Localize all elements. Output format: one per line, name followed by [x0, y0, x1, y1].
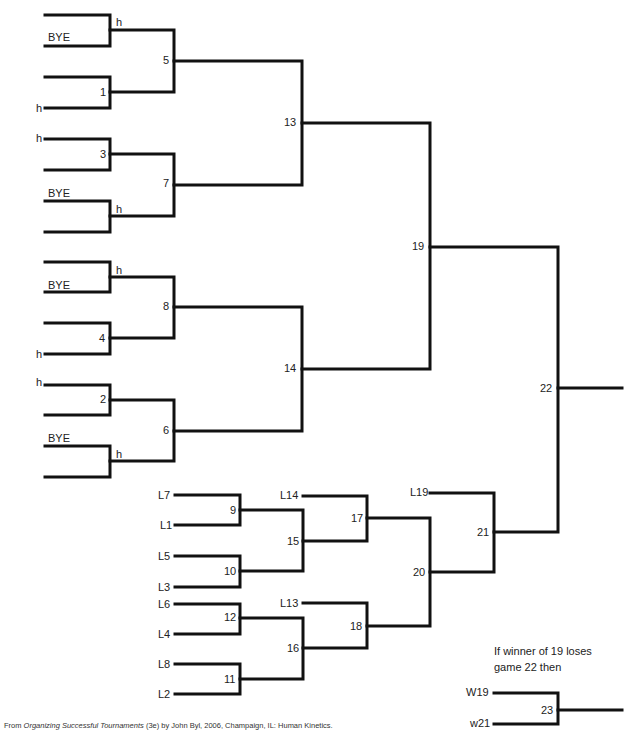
- game-number: 13: [284, 116, 296, 128]
- game-number: 9: [230, 504, 236, 516]
- entry-label: L14: [280, 489, 298, 501]
- entry-label: L6: [158, 598, 170, 610]
- game-number: 14: [284, 362, 296, 374]
- entry-label: L8: [158, 658, 170, 670]
- bye-label: BYE: [48, 279, 70, 291]
- home-marker: h: [36, 132, 42, 144]
- entry-label: L19: [410, 486, 428, 498]
- entry-label: L4: [158, 628, 170, 640]
- losers-labels: L7 L1 L5 L3 L6 L4 L8 L2 9 10 12 11 L14 1…: [158, 486, 489, 700]
- bye-label: BYE: [48, 432, 70, 444]
- source-citation: From Organizing Successful Tournaments (…: [4, 721, 333, 730]
- game-number: 18: [350, 620, 362, 632]
- game-number: 22: [540, 382, 552, 394]
- entry-label: L1: [160, 519, 172, 531]
- tournament-bracket: h BYE 5 1 h h 3 7 BYE h h BYE 8 4 h h 2 …: [0, 0, 641, 754]
- game-number: 4: [99, 332, 105, 344]
- entry-label: L2: [158, 688, 170, 700]
- game-number: 6: [163, 424, 169, 436]
- entry-label: L5: [158, 550, 170, 562]
- game-number: 20: [413, 566, 425, 578]
- losers-bracket-lines: [175, 493, 494, 694]
- game-number: 19: [412, 240, 424, 252]
- citation-title: Organizing Successful Tournaments: [24, 721, 144, 730]
- home-marker: h: [116, 264, 122, 276]
- game-number: 10: [224, 565, 236, 577]
- game-number: 7: [163, 177, 169, 189]
- entry-label: w21: [469, 717, 490, 729]
- home-marker: h: [116, 448, 122, 460]
- game-number: 23: [541, 704, 553, 716]
- game-number: 21: [477, 526, 489, 538]
- bye-label: BYE: [48, 187, 70, 199]
- winners-second-round: [110, 30, 174, 461]
- entry-label: W19: [466, 686, 489, 698]
- home-marker: h: [116, 203, 122, 215]
- home-marker: h: [36, 376, 42, 388]
- game-number: 2: [100, 393, 106, 405]
- game-number: 16: [287, 642, 299, 654]
- if-game-note: If winner of 19 loses: [494, 645, 592, 657]
- grand-final-lines: [430, 247, 558, 532]
- game-number: 15: [287, 535, 299, 547]
- home-marker: h: [36, 102, 42, 114]
- if-game-lines: [494, 693, 622, 724]
- winners-third-round: [174, 61, 302, 431]
- bye-label: BYE: [48, 31, 70, 43]
- game-number: 17: [351, 512, 363, 524]
- home-marker: h: [36, 348, 42, 360]
- entry-label: L3: [158, 581, 170, 593]
- citation-suffix: (3e) by John Byl, 2006, Champaign, IL: H…: [144, 721, 333, 730]
- game-number: 8: [163, 300, 169, 312]
- citation-prefix: From: [4, 721, 24, 730]
- if-game-note: game 22 then: [494, 661, 561, 673]
- game-number: 12: [224, 611, 236, 623]
- winners-labels: h BYE 5 1 h h 3 7 BYE h h BYE 8 4 h h 2 …: [36, 16, 552, 460]
- game-number: 5: [163, 54, 169, 66]
- game-number: 11: [224, 673, 235, 685]
- winners-first-round: [45, 15, 110, 477]
- entry-label: L7: [158, 489, 170, 501]
- winners-final-lines: [302, 123, 430, 369]
- home-marker: h: [116, 16, 122, 28]
- game-number: 1: [100, 86, 106, 98]
- game-number: 3: [100, 148, 106, 160]
- entry-label: L13: [280, 597, 298, 609]
- if-game-labels: If winner of 19 loses game 22 then W19 w…: [466, 645, 592, 729]
